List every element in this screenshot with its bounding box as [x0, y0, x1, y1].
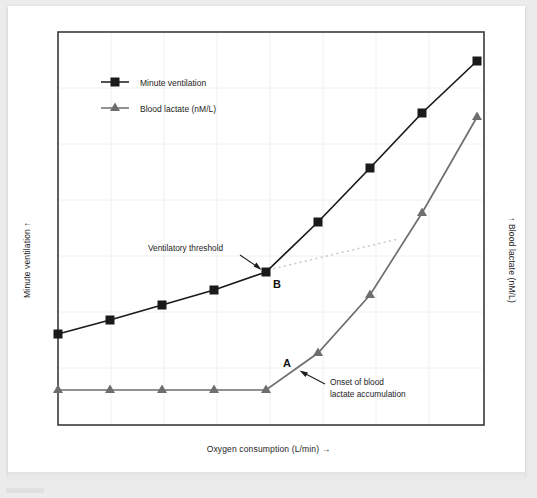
point-label-a: A — [283, 357, 291, 369]
y-axis-left-title: Minute ventilation ↑ — [22, 170, 32, 350]
legend-label-minute-ventilation: Minute ventilation — [140, 78, 206, 88]
chart-canvas: B A Ventilatory threshold Onset of blood… — [0, 0, 537, 498]
plot-background — [58, 32, 484, 425]
annotation-ventilatory-threshold-text: Ventilatory threshold — [148, 243, 224, 253]
legend-marker-square-icon — [111, 78, 120, 87]
point-label-b: B — [273, 278, 281, 290]
annotation-onset-text-line2: lactate accumulation — [330, 389, 406, 399]
annotation-onset-text-line1: Onset of blood — [330, 377, 384, 387]
figure-page: B A Ventilatory threshold Onset of blood… — [0, 0, 537, 498]
x-axis-title: Oxygen consumption (L/min) → — [0, 444, 537, 454]
chart-svg: B A Ventilatory threshold Onset of blood… — [0, 0, 537, 498]
legend-label-blood-lactate: Blood lactate (nM/L) — [140, 104, 216, 114]
y-axis-right-title: ↑ Blood lactate (nM/L) — [507, 170, 517, 350]
